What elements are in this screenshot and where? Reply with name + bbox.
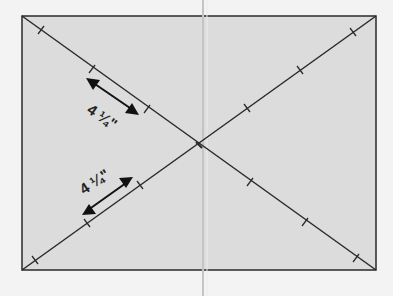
diagonal-diagram: 4 ¼" 4 ¼" [0, 0, 393, 296]
diagram-canvas: 4 ¼" 4 ¼" [0, 0, 393, 296]
